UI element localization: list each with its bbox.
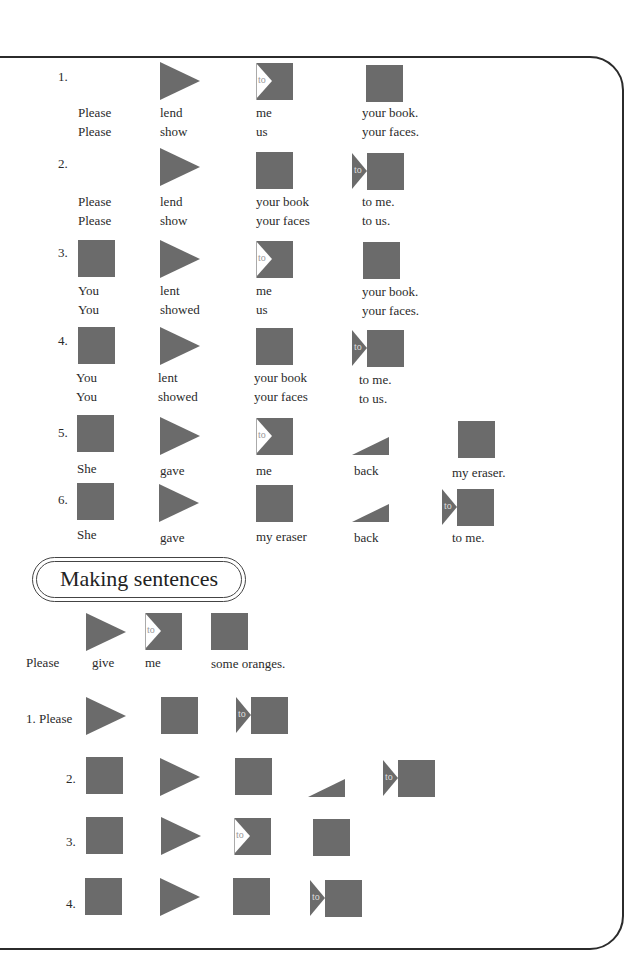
adverb-wedge-icon bbox=[352, 437, 389, 455]
to-arrow-icon: to bbox=[442, 489, 494, 526]
word: She bbox=[77, 461, 97, 476]
to-square-icon: to bbox=[256, 63, 293, 100]
pattern-number: 4. bbox=[58, 333, 68, 348]
verb-triangle-icon bbox=[160, 417, 200, 455]
word: me bbox=[256, 283, 272, 298]
to-arrow-icon: to bbox=[236, 697, 288, 734]
word: Please bbox=[78, 105, 111, 120]
verb-triangle-icon bbox=[86, 613, 126, 651]
word: Please bbox=[78, 194, 111, 209]
word: your book bbox=[256, 194, 309, 209]
word: me bbox=[145, 655, 161, 670]
to-arrow-icon: to bbox=[352, 153, 404, 190]
word: show bbox=[160, 124, 187, 139]
object-square-icon bbox=[366, 65, 403, 102]
subject-square-icon bbox=[77, 415, 114, 452]
object-square-icon bbox=[256, 328, 293, 365]
verb-triangle-icon bbox=[160, 148, 200, 186]
adverb-wedge-icon bbox=[352, 504, 389, 522]
word: You bbox=[76, 389, 97, 404]
verb-triangle-icon bbox=[160, 62, 200, 100]
exercise-label: 4. bbox=[66, 896, 76, 911]
word: to me. bbox=[362, 194, 395, 209]
word: your book. bbox=[362, 284, 418, 299]
to-arrow-icon: to bbox=[383, 760, 435, 797]
object-square-icon bbox=[233, 878, 270, 915]
section-title-banner: Making sentences bbox=[32, 557, 246, 602]
to-arrow-icon: to bbox=[310, 880, 362, 917]
word: show bbox=[160, 213, 187, 228]
object-square-icon bbox=[313, 819, 350, 856]
to-square-icon: to bbox=[256, 418, 293, 455]
word: lent bbox=[158, 370, 178, 385]
to-square-icon: to bbox=[234, 818, 271, 855]
exercise-label: 1. Please bbox=[26, 711, 72, 726]
word: gave bbox=[160, 530, 185, 545]
word: to us. bbox=[359, 391, 387, 406]
verb-triangle-icon bbox=[160, 878, 200, 916]
word: your faces bbox=[254, 389, 308, 404]
word: Please bbox=[78, 124, 111, 139]
object-square-icon bbox=[363, 242, 400, 279]
word: me bbox=[256, 105, 272, 120]
pattern-number: 1. bbox=[58, 69, 68, 84]
word: my eraser. bbox=[452, 465, 505, 480]
verb-triangle-icon bbox=[159, 484, 199, 522]
object-square-icon bbox=[256, 485, 293, 522]
object-square-icon bbox=[235, 758, 272, 795]
word: to me. bbox=[359, 372, 392, 387]
verb-triangle-icon bbox=[160, 240, 200, 278]
subject-square-icon bbox=[78, 240, 115, 277]
object-square-icon bbox=[458, 421, 495, 458]
verb-triangle-icon bbox=[160, 327, 200, 365]
to-arrow-icon: to bbox=[352, 330, 404, 367]
word: back bbox=[354, 530, 379, 545]
object-square-icon bbox=[161, 697, 198, 734]
word: your faces bbox=[256, 213, 310, 228]
pattern-number: 6. bbox=[58, 492, 68, 507]
word: your book. bbox=[362, 105, 418, 120]
word: lend bbox=[160, 194, 182, 209]
word: showed bbox=[160, 302, 200, 317]
word: your book bbox=[254, 370, 307, 385]
subject-square-icon bbox=[86, 817, 123, 854]
word: your faces. bbox=[362, 124, 419, 139]
word: us bbox=[256, 124, 268, 139]
word: Please bbox=[78, 213, 111, 228]
word: give bbox=[92, 655, 114, 670]
subject-square-icon bbox=[77, 483, 114, 520]
word: your faces. bbox=[362, 303, 419, 318]
word: She bbox=[77, 527, 97, 542]
subject-square-icon bbox=[85, 878, 122, 915]
word: gave bbox=[160, 463, 185, 478]
exercise-label: 2. bbox=[66, 771, 76, 786]
adverb-wedge-icon bbox=[308, 779, 345, 797]
word: me bbox=[256, 463, 272, 478]
word: some oranges. bbox=[211, 656, 285, 671]
verb-triangle-icon bbox=[86, 697, 126, 735]
pattern-number: 5. bbox=[58, 425, 68, 440]
word: You bbox=[78, 283, 99, 298]
verb-triangle-icon bbox=[161, 817, 201, 855]
word: showed bbox=[158, 389, 198, 404]
subject-square-icon bbox=[86, 757, 123, 794]
pattern-number: 2. bbox=[58, 156, 68, 171]
exercise-label: 3. bbox=[66, 834, 76, 849]
section-title: Making sentences bbox=[33, 566, 245, 592]
object-square-icon bbox=[211, 613, 248, 650]
word: lend bbox=[160, 105, 182, 120]
object-square-icon bbox=[256, 152, 293, 189]
verb-triangle-icon bbox=[160, 758, 200, 796]
word: lent bbox=[160, 283, 180, 298]
word: us bbox=[256, 302, 268, 317]
word: You bbox=[76, 370, 97, 385]
word: Please bbox=[26, 655, 59, 670]
word: You bbox=[78, 302, 99, 317]
word: my eraser bbox=[256, 529, 307, 544]
word: to us. bbox=[362, 213, 390, 228]
to-square-icon: to bbox=[256, 241, 293, 278]
word: to me. bbox=[452, 530, 485, 545]
word: back bbox=[354, 463, 379, 478]
pattern-number: 3. bbox=[58, 245, 68, 260]
subject-square-icon bbox=[78, 327, 115, 364]
